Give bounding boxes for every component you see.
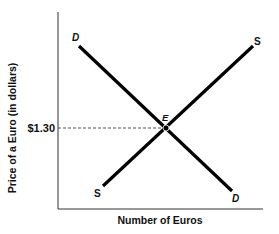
supply-demand-chart: Price of a Euro (in dollars) Number of E…: [0, 0, 279, 234]
demand-label-bottom: D: [232, 193, 239, 204]
equilibrium-point: [163, 125, 169, 131]
demand-curve: [79, 46, 232, 191]
y-axis-label: Price of a Euro (in dollars): [6, 63, 18, 194]
supply-label-top: S: [254, 36, 261, 47]
x-axis-label: Number of Euros: [117, 214, 202, 226]
supply-curve: [103, 46, 253, 186]
demand-label-top: D: [72, 32, 79, 43]
supply-label-bottom: S: [94, 188, 101, 199]
price-label: $1.30: [27, 122, 55, 134]
equilibrium-label: E: [162, 112, 169, 123]
